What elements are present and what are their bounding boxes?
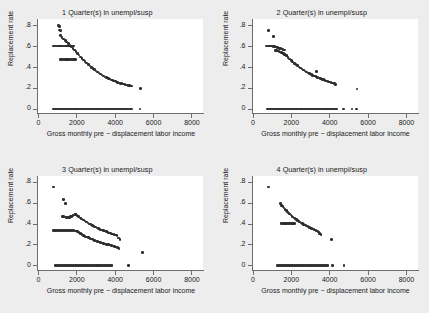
x-tick: 2000: [291, 114, 292, 118]
x-tick: 6000: [153, 271, 154, 275]
x-tick-label: 6000: [146, 119, 162, 126]
y-tick-label: .2: [25, 240, 31, 247]
y-tick: 0: [248, 265, 252, 266]
x-axis-line: [252, 270, 419, 271]
y-tick: 0: [33, 109, 37, 110]
x-tick-label: 4000: [322, 119, 338, 126]
y-tick: .6: [248, 203, 252, 204]
plot-canvas: [253, 19, 418, 113]
data-point: [330, 238, 333, 241]
y-tick: .4: [33, 224, 37, 225]
panel-title: 4 Quarter(s) in unempl/susp: [215, 165, 429, 174]
x-tick: 4000: [115, 271, 116, 275]
y-tick: .2: [33, 88, 37, 89]
x-tick: 0: [253, 271, 254, 275]
x-tick: 4000: [329, 271, 330, 275]
x-tick-label: 0: [37, 119, 41, 126]
data-point: [131, 108, 134, 111]
y-tick-label: .8: [240, 177, 246, 184]
x-tick: 0: [38, 114, 39, 118]
panel-4: 4 Quarter(s) in unempl/suspReplacement r…: [215, 157, 429, 313]
panel-2: 2 Quarter(s) in unempl/suspReplacement r…: [215, 0, 429, 157]
data-point: [327, 264, 330, 267]
data-point: [64, 202, 67, 205]
data-point: [111, 264, 114, 267]
x-axis-label: Gross monthly pre − displacement labor i…: [253, 130, 419, 137]
x-tick: 2000: [76, 114, 77, 118]
y-tick: .4: [248, 67, 252, 68]
data-point: [118, 247, 121, 250]
y-tick: 0: [248, 109, 252, 110]
y-tick-label: .2: [240, 83, 246, 90]
x-tick: 2000: [76, 271, 77, 275]
x-tick: 6000: [368, 271, 369, 275]
y-tick-label: .4: [25, 219, 31, 226]
data-point: [139, 108, 142, 111]
data-point: [272, 35, 275, 38]
x-tick-label: 2000: [69, 119, 85, 126]
y-tick: .8: [248, 182, 252, 183]
data-point: [283, 49, 286, 52]
y-tick: .4: [33, 67, 37, 68]
data-point: [59, 29, 62, 32]
x-tick-label: 8000: [399, 276, 415, 283]
x-axis-line: [37, 270, 204, 271]
x-axis-label: Gross monthly pre − displacement labor i…: [253, 287, 419, 294]
panel-1: 1 Quarter(s) in unempl/suspReplacement r…: [0, 0, 215, 157]
y-tick-label: .2: [240, 240, 246, 247]
y-tick: .6: [248, 46, 252, 47]
data-point: [335, 108, 338, 111]
y-tick-label: .8: [25, 177, 31, 184]
y-tick-label: .8: [25, 21, 31, 28]
y-tick: .8: [33, 25, 37, 26]
x-tick-label: 6000: [360, 276, 376, 283]
x-tick: 4000: [329, 114, 330, 118]
data-point: [130, 85, 133, 88]
y-axis-label: Replacement rate: [222, 167, 229, 222]
plot-canvas: [38, 176, 203, 270]
y-tick-label: .6: [240, 198, 246, 205]
y-axis-label: Replacement rate: [7, 167, 14, 222]
y-axis-label: Replacement rate: [7, 11, 14, 66]
y-tick-label: 0: [242, 261, 246, 268]
y-tick-label: .4: [25, 63, 31, 70]
x-tick-label: 0: [251, 119, 255, 126]
panel-title: 2 Quarter(s) in unempl/susp: [215, 8, 429, 17]
data-point: [293, 222, 296, 225]
x-tick: 2000: [291, 271, 292, 275]
x-tick-label: 8000: [399, 119, 415, 126]
data-point: [58, 25, 61, 28]
y-axis-label: Replacement rate: [222, 11, 229, 66]
x-tick-label: 4000: [107, 276, 123, 283]
y-tick-label: .2: [25, 83, 31, 90]
x-tick: 6000: [368, 114, 369, 118]
x-tick-label: 6000: [146, 276, 162, 283]
x-tick-label: 8000: [184, 119, 200, 126]
x-tick-label: 2000: [284, 276, 300, 283]
y-tick: .8: [248, 25, 252, 26]
y-tick-label: .4: [240, 219, 246, 226]
y-tick-label: .6: [25, 42, 31, 49]
y-tick-label: .6: [25, 198, 31, 205]
data-point: [342, 108, 345, 111]
x-tick: 8000: [406, 271, 407, 275]
x-tick-label: 0: [251, 276, 255, 283]
y-tick: 0: [33, 265, 37, 266]
x-tick-label: 2000: [69, 276, 85, 283]
data-point: [62, 198, 65, 201]
y-tick: .6: [33, 46, 37, 47]
plot-area: [38, 19, 203, 113]
y-tick: .2: [248, 88, 252, 89]
panel-3: 3 Quarter(s) in unempl/suspReplacement r…: [0, 157, 215, 313]
x-axis-line: [37, 113, 204, 114]
plot-canvas: [253, 176, 418, 270]
data-point: [315, 70, 318, 73]
plot-area: [253, 19, 418, 113]
data-point: [52, 186, 55, 189]
x-tick-label: 2000: [284, 119, 300, 126]
x-tick-label: 4000: [322, 276, 338, 283]
data-point: [351, 108, 354, 111]
x-tick-label: 0: [37, 276, 41, 283]
data-point: [139, 87, 142, 90]
x-tick-label: 8000: [184, 276, 200, 283]
